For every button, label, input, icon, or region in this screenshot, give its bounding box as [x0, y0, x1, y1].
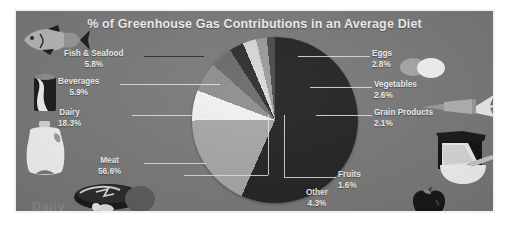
eggs-icon	[399, 55, 447, 79]
label-other-name: Other	[306, 188, 328, 197]
chart-panel: % of Greenhouse Gas Contributions in an …	[14, 9, 495, 213]
pie-slices	[192, 37, 358, 203]
label-beverages-name: Beverages	[58, 77, 99, 86]
apple-icon	[412, 187, 446, 213]
label-beverages: Beverages 5.9%	[58, 77, 99, 98]
label-meat-name: Meat	[100, 156, 119, 165]
pie-chart	[192, 37, 358, 203]
milk-jug-icon	[24, 121, 66, 177]
infographic-root: % of Greenhouse Gas Contributions in an …	[0, 0, 509, 242]
leader-line-fruits	[284, 177, 336, 178]
label-eggs: Eggs 2.8%	[372, 49, 392, 70]
watermark: Daily	[32, 199, 65, 213]
label-dairy-name: Dairy	[59, 108, 79, 117]
label-grain-products-value: 2.1%	[374, 119, 433, 130]
leader-line-vegetables	[310, 87, 372, 88]
label-meat: Meat 56.6%	[98, 156, 121, 177]
leader-line-other	[184, 175, 268, 176]
label-fruits-value: 1.6%	[338, 181, 361, 192]
label-dairy-value: 18.3%	[58, 119, 81, 130]
label-fruits: Fruits 1.6%	[338, 170, 361, 191]
cereal-bowl-icon	[432, 129, 494, 185]
leader-line-grain	[316, 115, 372, 116]
label-eggs-value: 2.8%	[372, 60, 392, 71]
label-fruits-name: Fruits	[338, 170, 361, 179]
label-vegetables-value: 2.6%	[374, 91, 417, 102]
label-grain-products: Grain Products 2.1%	[374, 108, 433, 129]
label-fish-seafood-value: 5.8%	[64, 60, 124, 71]
leader-line-other-vertical	[268, 115, 269, 175]
leader-line-dairy	[132, 115, 214, 116]
label-other: Other 4.3%	[306, 188, 328, 209]
label-vegetables: Vegetables 2.6%	[374, 80, 417, 101]
label-eggs-name: Eggs	[372, 49, 392, 58]
label-dairy: Dairy 18.3%	[58, 108, 81, 129]
steak-icon	[60, 179, 158, 213]
leader-line-meat	[144, 163, 206, 164]
leader-line-eggs	[298, 56, 370, 57]
label-grain-products-name: Grain Products	[374, 108, 433, 117]
leader-line-fruits-vertical	[284, 115, 285, 177]
label-other-value: 4.3%	[306, 199, 328, 210]
leader-line-beverages	[120, 84, 220, 85]
label-meat-value: 56.6%	[98, 167, 121, 178]
label-beverages-value: 5.9%	[58, 88, 99, 99]
label-fish-seafood-name: Fish & Seafood	[64, 49, 124, 58]
label-vegetables-name: Vegetables	[374, 80, 417, 89]
leader-line-fish	[144, 56, 204, 57]
soda-can-icon	[32, 73, 58, 113]
page-title: % of Greenhouse Gas Contributions in an …	[16, 17, 493, 31]
label-fish-seafood: Fish & Seafood 5.8%	[64, 49, 124, 70]
